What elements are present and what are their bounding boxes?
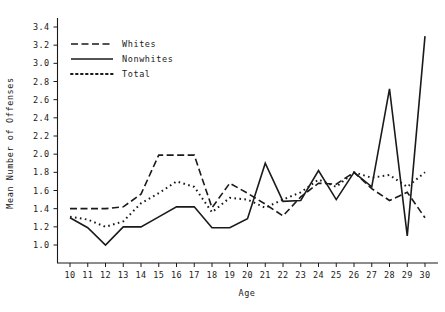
x-tick-label: 22: [277, 270, 288, 280]
x-tick-label: 30: [419, 270, 430, 280]
x-tick-label: 17: [189, 270, 200, 280]
series-line-nonwhites: [70, 36, 425, 245]
chart-container: 1.01.21.41.61.82.02.22.42.62.83.03.23.4 …: [0, 0, 445, 312]
y-tick-label: 2.2: [33, 131, 50, 141]
x-tick-label: 24: [313, 270, 324, 280]
x-tick-label: 23: [295, 270, 306, 280]
y-tick-label: 1.4: [33, 204, 50, 214]
x-tick-label: 15: [153, 270, 164, 280]
x-tick-label: 10: [64, 270, 75, 280]
x-tick-label: 20: [242, 270, 253, 280]
x-tick-label: 18: [206, 270, 217, 280]
x-axis-ticks: 1011121314151617181920212223242526272829…: [64, 263, 430, 280]
x-tick-label: 11: [82, 270, 93, 280]
x-tick-label: 14: [135, 270, 146, 280]
chart-legend: WhitesNonwhitesTotal: [71, 39, 173, 79]
y-tick-label: 2.0: [33, 149, 50, 159]
x-tick-label: 27: [366, 270, 377, 280]
y-tick-label: 3.2: [33, 40, 50, 50]
x-tick-label: 16: [171, 270, 182, 280]
legend-label-nonwhites: Nonwhites: [122, 54, 173, 64]
y-tick-label: 3.4: [33, 22, 50, 32]
x-tick-label: 12: [100, 270, 111, 280]
x-tick-label: 28: [384, 270, 395, 280]
y-axis-ticks: 1.01.21.41.61.82.02.22.42.62.83.03.23.4: [33, 22, 58, 250]
x-tick-label: 29: [402, 270, 413, 280]
y-tick-label: 2.6: [33, 95, 50, 105]
legend-label-whites: Whites: [122, 39, 156, 49]
x-axis-label: Age: [238, 288, 255, 298]
x-tick-label: 21: [260, 270, 271, 280]
line-chart: 1.01.21.41.61.82.02.22.42.62.83.03.23.4 …: [0, 0, 445, 312]
y-axis-label: Mean Number of Offenses: [5, 77, 15, 209]
x-tick-label: 19: [224, 270, 235, 280]
y-tick-label: 3.0: [33, 58, 50, 68]
y-tick-label: 1.6: [33, 186, 50, 196]
y-tick-label: 1.8: [33, 167, 50, 177]
y-tick-label: 2.8: [33, 77, 50, 87]
x-tick-label: 25: [331, 270, 342, 280]
legend-label-total: Total: [122, 69, 151, 79]
y-tick-label: 1.0: [33, 240, 50, 250]
y-tick-label: 1.2: [33, 222, 50, 232]
data-series-group: [70, 36, 425, 245]
x-tick-label: 26: [348, 270, 359, 280]
y-tick-label: 2.4: [33, 113, 50, 123]
x-tick-label: 13: [118, 270, 129, 280]
